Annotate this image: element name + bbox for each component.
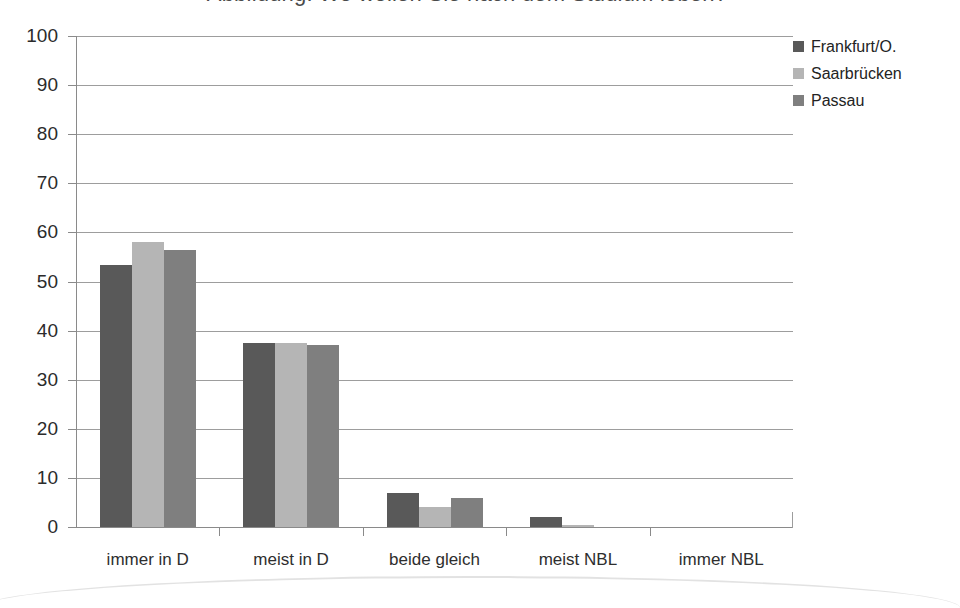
gridline	[76, 134, 793, 135]
y-axis-label: 60	[0, 222, 58, 241]
y-axis-tick	[68, 331, 77, 332]
bar	[307, 345, 339, 527]
y-axis-label: 10	[0, 468, 58, 487]
y-axis-label: 100	[0, 26, 58, 45]
bar	[100, 265, 132, 527]
y-axis-label: 20	[0, 419, 58, 438]
square-marker-icon	[793, 68, 804, 79]
bar	[451, 498, 483, 527]
y-axis-label: 30	[0, 370, 58, 389]
x-axis-right-cap	[792, 512, 793, 528]
x-axis-tick	[506, 527, 507, 536]
bar	[530, 517, 562, 527]
y-axis-tick	[68, 183, 77, 184]
bar	[132, 242, 164, 527]
bar	[275, 343, 307, 527]
legend-item-label: Saarbrücken	[811, 65, 902, 82]
x-axis-tick	[363, 527, 364, 536]
x-axis-category-label: meist in D	[219, 551, 362, 569]
bar	[243, 343, 275, 527]
legend-item-label: Passau	[811, 92, 864, 109]
x-axis-tick	[219, 527, 220, 536]
x-axis-category-label: beide gleich	[363, 551, 506, 569]
legend-item[interactable]: Frankfurt/O.	[793, 33, 934, 60]
y-axis-tick	[68, 527, 77, 528]
gridline	[76, 527, 793, 528]
y-axis-tick	[68, 380, 77, 381]
gridline	[76, 85, 793, 86]
gridline	[76, 183, 793, 184]
y-axis-label: 80	[0, 124, 58, 143]
y-axis-tick	[68, 429, 77, 430]
y-axis-label: 0	[0, 517, 58, 536]
bar	[419, 507, 451, 527]
legend-item[interactable]: Saarbrücken	[793, 60, 934, 87]
y-axis-label: 90	[0, 75, 58, 94]
x-axis-category-label: meist NBL	[506, 551, 649, 569]
y-axis-label: 70	[0, 173, 58, 192]
y-axis-label: 50	[0, 272, 58, 291]
y-axis-tick	[68, 85, 77, 86]
y-axis-tick	[68, 232, 77, 233]
y-axis-tick	[68, 36, 77, 37]
legend-item-label: Frankfurt/O.	[811, 38, 896, 55]
bar	[164, 250, 196, 527]
gridline	[76, 232, 793, 233]
square-marker-icon	[793, 95, 804, 106]
x-axis-category-label: immer in D	[76, 551, 219, 569]
y-axis-label: 40	[0, 321, 58, 340]
gridline	[76, 36, 793, 37]
square-marker-icon	[793, 41, 804, 52]
y-axis-tick	[68, 478, 77, 479]
x-axis-category-label: immer NBL	[650, 551, 793, 569]
y-axis-tick	[68, 134, 77, 135]
x-axis-tick	[650, 527, 651, 536]
plot-area	[76, 36, 793, 527]
bar	[387, 493, 419, 527]
y-axis-tick	[68, 282, 77, 283]
legend-item[interactable]: Passau	[793, 87, 934, 114]
chart-legend: Frankfurt/O.SaarbrückenPassau	[793, 33, 934, 114]
bar	[562, 525, 594, 527]
